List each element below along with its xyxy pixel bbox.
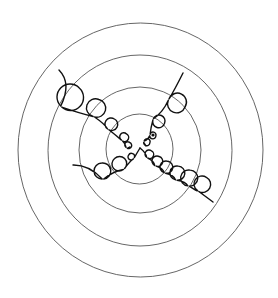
concentric-rings-diagram: [0, 0, 278, 298]
markers-layer: [151, 133, 154, 136]
vertex-dot: [151, 133, 154, 136]
